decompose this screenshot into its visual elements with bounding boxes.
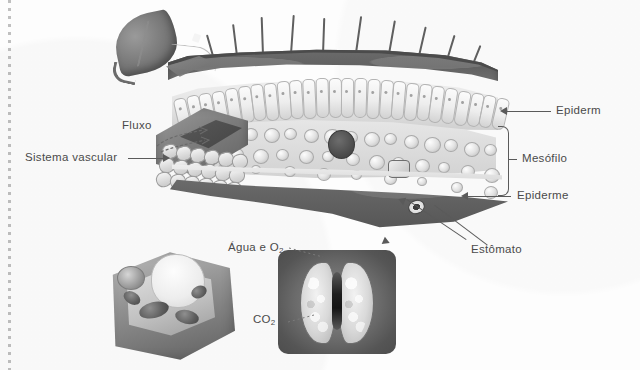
label-estomato-text: Estômato [471, 243, 522, 255]
trichome-icon [355, 16, 362, 53]
label-mesofilo: Mesófilo [522, 152, 567, 164]
mesofilo-brace [498, 126, 509, 196]
palisade-cell [341, 78, 354, 118]
label-agua-text: Água e O [228, 241, 279, 253]
leaf-cutout-window [192, 33, 201, 43]
label-co2-subscript: 2 [271, 318, 276, 327]
spongy-cell [264, 128, 280, 143]
label-co2-text: CO [253, 313, 271, 325]
figure-canvas: Epiderm Mesófilo Epiderme Estômato Fluxo… [0, 0, 640, 370]
epiderm-arrowhead [500, 107, 507, 115]
label-agua-e-o2: Água e O2 [228, 241, 284, 255]
gas-exchange-arrowhead [379, 237, 389, 248]
palisade-cell [328, 78, 341, 118]
epiderme-arrowhead [461, 192, 468, 200]
spongy-cell [438, 162, 450, 173]
agua-o2-leader [289, 244, 339, 264]
spongy-cell [451, 182, 463, 193]
guard-cell-left [300, 262, 336, 344]
palisade-cell [315, 78, 329, 118]
label-sistema-vascular: Sistema vascular [25, 151, 117, 163]
spongy-cell [464, 142, 480, 157]
nucleus [117, 266, 145, 290]
spongy-cell [369, 155, 385, 170]
spongy-cell [304, 129, 319, 143]
plant-cell-cutaway-illustration [105, 250, 235, 362]
sistema-vascular-leader-line [128, 158, 164, 159]
label-co2: CO2 [253, 313, 276, 327]
epiderm-leader-line [507, 111, 551, 112]
co2-leader [288, 312, 328, 330]
spongy-cell [417, 177, 427, 186]
spongy-cell [484, 186, 498, 199]
label-epiderme-bottom: Epiderme [517, 189, 569, 201]
epiderme-leader-line [468, 196, 511, 197]
label-epiderm-top: Epiderm [556, 104, 601, 116]
spongy-cell [364, 132, 380, 147]
trichome-icon [261, 17, 264, 55]
vein-cross-section [328, 130, 355, 159]
vacuole [151, 254, 205, 308]
trichome-icon [322, 18, 325, 54]
label-fluxo: Fluxo [122, 119, 152, 131]
label-agua-subscript: 2 [279, 246, 284, 255]
stoma-micrograph [278, 250, 396, 354]
spongy-cell [484, 144, 497, 156]
stomatal-pore [332, 272, 342, 330]
trichome-icon [418, 27, 427, 57]
mesofilo-brace-nub [508, 159, 517, 160]
spongy-cell [253, 149, 269, 164]
leaf-cross-section-illustration [150, 12, 510, 217]
trichome-icon [232, 24, 238, 56]
scan-binding-edge [8, 0, 11, 370]
fluxo-flow-arrows [155, 124, 215, 156]
trichome-icon [290, 15, 295, 54]
trichome-icon [388, 20, 396, 54]
label-estomato: Estômato [471, 243, 522, 255]
